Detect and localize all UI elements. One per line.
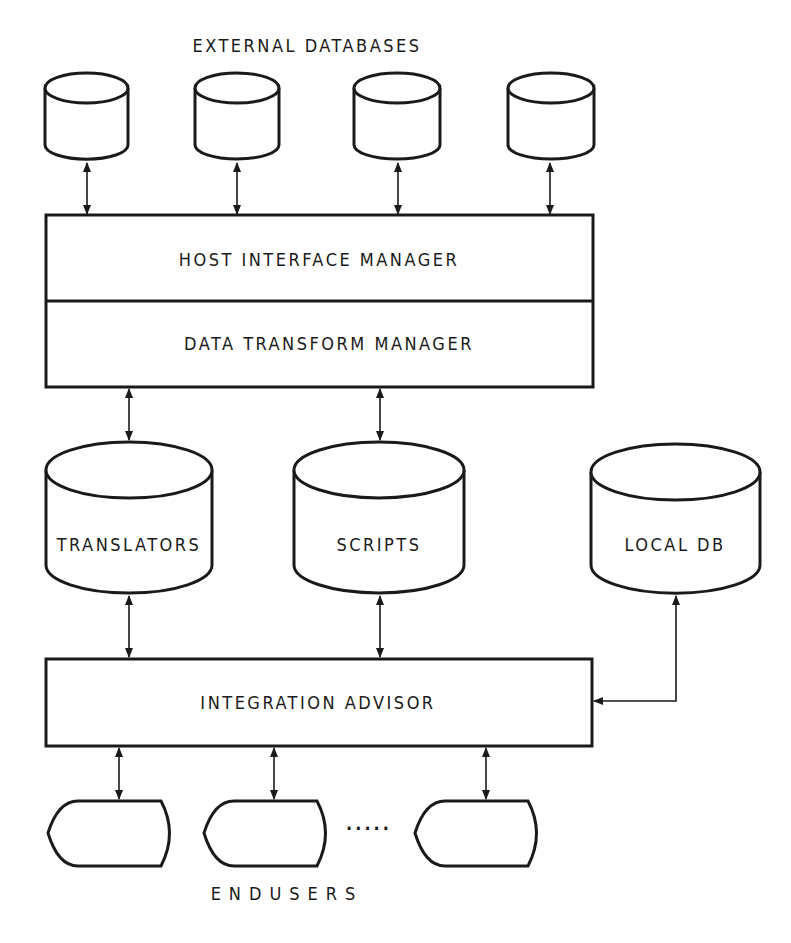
scripts-label: SCRIPTS [336, 534, 421, 555]
local-db-label: LOCAL DB [624, 534, 725, 555]
scripts-store: SCRIPTS [294, 442, 464, 593]
external-database-2 [195, 73, 279, 159]
host-interface-manager-label: HOST INTERFACE MANAGER [179, 249, 460, 270]
external-database-1 [45, 73, 128, 159]
local-db-store: LOCAL DB [591, 444, 760, 593]
local-db-connector-arrow [594, 596, 676, 701]
data-transform-manager-label: DATA TRANSFORM MANAGER [184, 333, 474, 354]
enduser-terminal-3-icon [415, 801, 537, 866]
architecture-diagram: EXTERNAL DATABASES HOST INTERFACE MANAGE… [0, 0, 791, 943]
external-databases-title: EXTERNAL DATABASES [192, 35, 421, 56]
enduser-terminal-2-icon [204, 801, 326, 866]
translators-label: TRANSLATORS [56, 534, 202, 555]
translators-store: TRANSLATORS [46, 442, 212, 593]
external-database-3 [354, 73, 440, 159]
enduser-terminal-1-icon [48, 801, 170, 866]
integration-advisor-label: INTEGRATION ADVISOR [200, 692, 435, 713]
endusers-title: ENDUSERS [211, 883, 364, 904]
ellipsis: ..... [346, 813, 392, 834]
external-database-4 [508, 73, 594, 159]
